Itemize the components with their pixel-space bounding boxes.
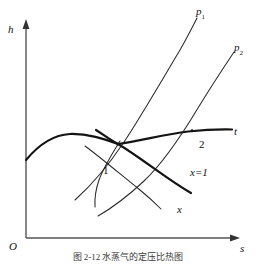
curve-label-p2-subscript: 2 xyxy=(240,49,244,57)
origin-label: O xyxy=(9,241,17,252)
figure-plot-canvas xyxy=(0,0,256,265)
curve-label-p2-base: p xyxy=(234,41,240,53)
curve-label-t: t xyxy=(234,126,237,137)
arrow-up-icon xyxy=(23,19,30,29)
arrow-right-icon xyxy=(230,235,240,242)
y-axis-label: h xyxy=(8,24,14,35)
node-label-2: 2 xyxy=(199,139,205,150)
curve-label-p1-base: p xyxy=(196,5,202,17)
figure-caption: 图 2-12 水蒸气的定压比热图 xyxy=(0,252,256,263)
curve-p1 xyxy=(75,18,197,200)
curve-label-p1: p1 xyxy=(196,6,205,20)
node-point-1 xyxy=(117,143,120,146)
curve-label-x: x xyxy=(177,204,182,215)
node-label-1: 1 xyxy=(103,165,109,176)
curve-label-p2: p2 xyxy=(234,42,243,56)
curve-label-x-equals-1: x=1 xyxy=(190,167,208,178)
node-point-2 xyxy=(191,129,194,132)
figure-container: h s O p1 p2 t x x=1 1 2 图 2-12 水蒸气的定压比热图 xyxy=(0,0,256,265)
curve-label-p1-subscript: 1 xyxy=(202,13,206,21)
